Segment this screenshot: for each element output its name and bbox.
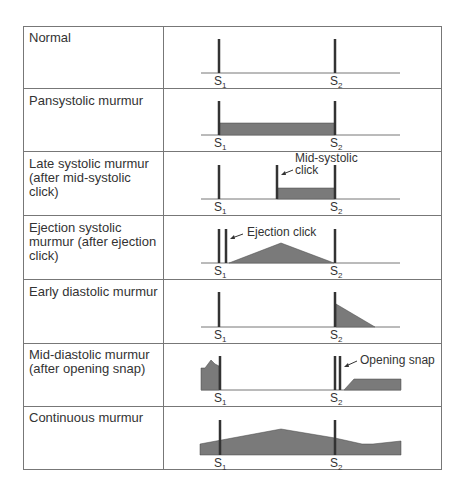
row-label-ejection-systolic: Ejection systolic murmur (after ejection… xyxy=(29,221,161,263)
row-label-pansystolic: Pansystolic murmur xyxy=(29,94,159,108)
diagram-pansystolic xyxy=(201,101,400,135)
row-label-normal: Normal xyxy=(29,31,159,45)
row-label-early-diastolic: Early diastolic murmur xyxy=(29,285,161,299)
annotation-ejection-click: Ejection click xyxy=(247,226,316,238)
s2-label: S2 xyxy=(330,457,342,471)
s2-label: S2 xyxy=(330,265,342,279)
s1-label: S1 xyxy=(214,329,226,343)
s1-label: S1 xyxy=(214,201,226,215)
s2-label: S2 xyxy=(330,137,342,151)
murmur-fill xyxy=(219,123,335,135)
s1-label: S1 xyxy=(214,137,226,151)
s1-label: S1 xyxy=(214,392,226,406)
annotation-opening-snap: Opening snap xyxy=(360,354,435,366)
row-label-mid-diastolic: Mid-diastolic murmur (after opening snap… xyxy=(29,348,161,376)
row-label-continuous: Continuous murmur xyxy=(29,411,161,425)
s2-label: S2 xyxy=(330,75,342,89)
diagram-early-diastolic xyxy=(201,292,400,327)
s1-label: S1 xyxy=(214,75,226,89)
s1-label: S1 xyxy=(214,265,226,279)
annotation-click: click xyxy=(295,164,318,176)
s1-label: S1 xyxy=(214,457,226,471)
s2-label: S2 xyxy=(330,201,342,215)
diagram-normal xyxy=(201,39,400,73)
diagram-continuous xyxy=(200,420,401,455)
row-label-late-systolic: Late systolic murmur (after mid-systolic… xyxy=(29,157,161,199)
s2-label: S2 xyxy=(330,392,342,406)
s2-label: S2 xyxy=(330,329,342,343)
